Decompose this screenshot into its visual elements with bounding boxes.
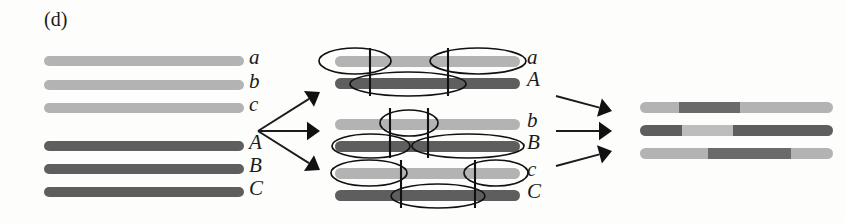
crossover-ellipse-bivalent-c-C-C-3 <box>391 184 485 208</box>
pairing-arrow-3-head <box>304 155 320 171</box>
crossover-ellipse-bivalent-b-B-B-2 <box>332 134 410 158</box>
figure-overlay <box>0 0 845 223</box>
product-arrow-1-shaft <box>556 96 599 108</box>
crossover-ellipse-bivalent-c-C-c-2 <box>464 160 528 186</box>
crossover-ellipse-bivalent-b-B-b-1 <box>380 110 438 136</box>
pairing-arrow-1-head <box>304 91 320 107</box>
pairing-arrow-2-head <box>307 122 320 141</box>
product-arrow-2-head <box>599 122 612 141</box>
pairing-arrow-3-shaft <box>258 131 309 163</box>
product-arrow-3-shaft <box>556 154 599 166</box>
figure-panel-d: (d) abcABC aAbBcC <box>0 0 845 223</box>
arrows-group <box>258 91 612 171</box>
crossover-ellipse-bivalent-a-A-a-2 <box>430 48 526 74</box>
crossover-ellipses-group <box>319 48 528 208</box>
crossover-ellipse-bivalent-a-A-a-1 <box>319 48 391 74</box>
crossover-ellipse-bivalent-c-C-c-1 <box>331 160 407 186</box>
pairing-arrow-1-shaft <box>258 99 309 131</box>
